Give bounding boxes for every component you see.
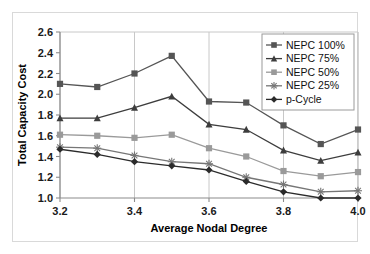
marker-diamond bbox=[131, 158, 138, 165]
marker-diamond bbox=[317, 194, 324, 201]
legend-label-1: NEPC 75% bbox=[286, 52, 339, 64]
marker-square bbox=[280, 122, 286, 128]
marker-square bbox=[94, 133, 100, 139]
marker-square bbox=[206, 145, 212, 151]
marker-triangle bbox=[355, 149, 362, 156]
marker-square bbox=[131, 135, 137, 141]
marker-diamond bbox=[243, 178, 250, 185]
y-tick-label-1: 1.2 bbox=[38, 171, 53, 183]
legend-label-0: NEPC 100% bbox=[286, 39, 345, 51]
legend-label-3: NEPC 25% bbox=[286, 79, 339, 91]
marker-square bbox=[169, 132, 175, 138]
legend: NEPC 100%NEPC 75%NEPC 50%NEPC 25%p-Cycle bbox=[262, 34, 354, 110]
marker-square bbox=[243, 153, 249, 159]
marker-square bbox=[94, 84, 100, 90]
marker-square bbox=[355, 126, 361, 132]
x-tick-label-1: 3.4 bbox=[127, 205, 143, 217]
y-tick-label-4: 1.8 bbox=[38, 109, 53, 121]
y-tick-label-0: 1.0 bbox=[38, 192, 53, 204]
line-chart: 1.01.21.41.61.82.02.22.42.63.23.43.63.84… bbox=[0, 0, 370, 254]
marker-square bbox=[280, 168, 286, 174]
x-tick-label-2: 3.6 bbox=[201, 205, 216, 217]
x-tick-label-4: 4.0 bbox=[350, 205, 365, 217]
x-tick-label-3: 3.8 bbox=[276, 205, 291, 217]
legend-label-4: p-Cycle bbox=[286, 93, 322, 105]
marker-diamond bbox=[280, 188, 287, 195]
marker-square bbox=[131, 70, 137, 76]
marker-square bbox=[57, 81, 63, 87]
marker-square bbox=[271, 42, 277, 48]
marker-diamond bbox=[205, 166, 212, 173]
x-axis-title: Average Nodal Degree bbox=[151, 222, 268, 234]
marker-square bbox=[355, 169, 361, 175]
marker-square bbox=[318, 141, 324, 147]
marker-square bbox=[271, 69, 277, 75]
marker-square bbox=[57, 132, 63, 138]
marker-diamond bbox=[168, 162, 175, 169]
y-tick-label-5: 2.0 bbox=[38, 88, 53, 100]
marker-square bbox=[318, 173, 324, 179]
marker-diamond bbox=[94, 151, 101, 158]
y-tick-label-3: 1.6 bbox=[38, 130, 53, 142]
y-tick-label-8: 2.6 bbox=[38, 26, 53, 38]
marker-square bbox=[206, 98, 212, 104]
x-tick-label-0: 3.2 bbox=[52, 205, 67, 217]
y-axis-title: Total Capacity Cost bbox=[16, 64, 28, 166]
marker-triangle bbox=[168, 93, 175, 100]
y-tick-label-6: 2.2 bbox=[38, 68, 53, 80]
chart-figure: 1.01.21.41.61.82.02.22.42.63.23.43.63.84… bbox=[0, 0, 370, 254]
marker-square bbox=[169, 53, 175, 59]
marker-diamond bbox=[354, 194, 361, 201]
y-tick-label-7: 2.4 bbox=[38, 47, 54, 59]
marker-square bbox=[243, 99, 249, 105]
legend-label-2: NEPC 50% bbox=[286, 66, 339, 78]
y-tick-label-2: 1.4 bbox=[38, 151, 54, 163]
marker-triangle bbox=[280, 147, 287, 154]
